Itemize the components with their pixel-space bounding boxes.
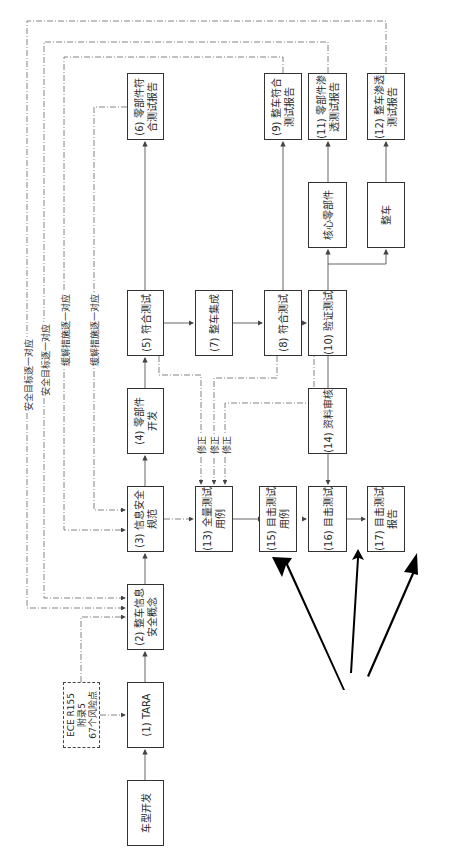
- box-verification-test: (10) 验证测试: [308, 290, 347, 356]
- box-vehicle-development: 车型开发: [127, 780, 164, 846]
- big-arrows: [272, 549, 418, 690]
- box-vehicle-integration: (7) 整车集成: [195, 290, 233, 356]
- label-line: 开发: [146, 397, 159, 444]
- box-component-conformance-report: (6) 零部件符 合测试报告: [127, 73, 164, 140]
- box-vehicle-security-concept: (2) 整车信息 安全概念: [127, 584, 164, 650]
- label-line: (13) 全量测试: [201, 487, 214, 551]
- box-witness-test: (16) 目击测试: [308, 486, 347, 552]
- label-line: (12) 整车渗透: [373, 75, 386, 139]
- label: (4) 零部件 开发: [133, 397, 159, 444]
- label-line: (3) 信息安全: [133, 490, 146, 547]
- label: (13) 全量测试 用例: [201, 487, 227, 551]
- label-line: 67个风险点: [87, 691, 98, 738]
- label-line: 测试报告: [386, 75, 399, 139]
- box-witness-test-cases: (15) 目击测试 用例: [259, 486, 297, 552]
- label-line: 报告: [386, 487, 399, 551]
- label: (6) 零部件符 合测试报告: [133, 78, 159, 135]
- label: (17) 目击测试 报告: [373, 487, 399, 551]
- label-line: 测试报告: [283, 78, 296, 135]
- label: (15) 目击测试 用例: [265, 487, 291, 551]
- box-security-spec: (3) 信息安全 规范: [127, 486, 164, 552]
- edge-label-safety-goal-2: 安全目标逐一对应: [39, 322, 52, 398]
- label: (14) 资料审核: [321, 389, 334, 453]
- label: (10) 验证测试: [321, 291, 334, 355]
- edge-label-mitigation-2: 缓解措施逐一对应: [88, 292, 101, 368]
- label: (12) 整车渗透 测试报告: [373, 75, 399, 139]
- label-line: 安全概念: [146, 588, 159, 645]
- label: 车型开发: [139, 793, 152, 833]
- box-document-review: (14) 资料审核: [308, 388, 347, 454]
- edge-label-fix-1: 修正: [195, 434, 208, 456]
- label-line: 透测试报告: [328, 75, 341, 139]
- label: ECE R155 附录5 67个风险点: [65, 691, 98, 738]
- label-line: (6) 零部件符: [133, 78, 146, 135]
- label-line: ECE R155: [65, 691, 76, 738]
- label-line: 用例: [214, 487, 227, 551]
- box-conformance-test-8: (8) 符合测试: [264, 290, 302, 356]
- label-line: (15) 目击测试: [265, 487, 278, 551]
- label: (5) 符合测试: [139, 294, 152, 351]
- box-vehicle-pentest-report: (12) 整车渗透 测试报告: [367, 73, 405, 140]
- label-line: (17) 目击测试: [373, 487, 386, 551]
- box-full-test-cases: (13) 全量测试 用例: [195, 486, 233, 552]
- label: (3) 信息安全 规范: [133, 490, 159, 547]
- label: (16) 目击测试: [321, 487, 334, 551]
- label-line: 用例: [278, 487, 291, 551]
- label: (11) 零部件渗 透测试报告: [315, 75, 341, 139]
- edge-label-safety-goal-1: 安全目标逐一对应: [22, 337, 35, 413]
- label-line: 合测试报告: [146, 78, 159, 135]
- label: 整车: [380, 205, 393, 225]
- label-line: (9) 整车符合: [270, 78, 283, 135]
- label-line: (11) 零部件渗: [315, 75, 328, 139]
- label-line: 附录5: [76, 691, 87, 738]
- box-component-pentest-report: (11) 零部件渗 透测试报告: [308, 73, 347, 140]
- label: (7) 整车集成: [208, 294, 221, 351]
- box-witness-test-report: (17) 目击测试 报告: [367, 486, 405, 552]
- box-tara: (1) TARA: [127, 682, 164, 748]
- label: (2) 整车信息 安全概念: [133, 588, 159, 645]
- edge-label-fix-3: 修正: [220, 434, 233, 456]
- box-component-dev: (4) 零部件 开发: [127, 388, 164, 454]
- label: (9) 整车符合 测试报告: [270, 78, 296, 135]
- label: (8) 符合测试: [277, 294, 290, 351]
- box-core-components: 核心零部件: [308, 182, 347, 248]
- box-vehicle-conformance-report: (9) 整车符合 测试报告: [264, 73, 302, 140]
- box-conformance-test-5: (5) 符合测试: [127, 290, 164, 356]
- box-ece-r155: ECE R155 附录5 67个风险点: [63, 682, 100, 748]
- box-whole-vehicle: 整车: [367, 182, 405, 248]
- label: (1) TARA: [139, 694, 152, 737]
- label-line: (2) 整车信息: [133, 588, 146, 645]
- label: 核心零部件: [321, 190, 334, 240]
- label-line: (4) 零部件: [133, 397, 146, 444]
- label-line: 规范: [146, 490, 159, 547]
- edge-label-mitigation-1: 缓解措施逐一对应: [59, 292, 72, 368]
